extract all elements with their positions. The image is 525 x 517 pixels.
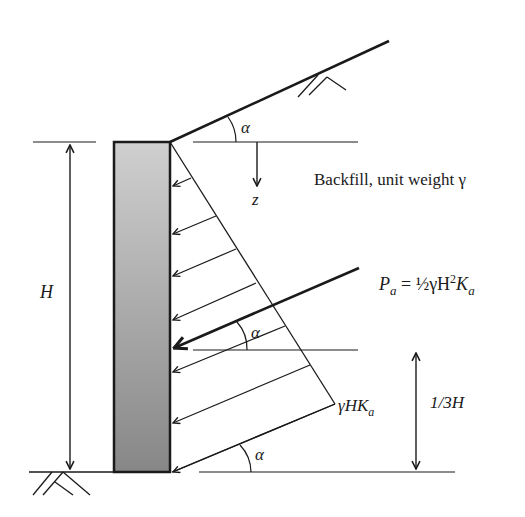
resultant-equation: Pa = ½γH2Ka (378, 272, 475, 298)
resultant-k: K (455, 274, 469, 294)
resultant-eq-mid: = ½γH (397, 274, 451, 294)
base-pressure-label: γHKa (338, 396, 374, 419)
pressure-envelope-line (170, 142, 335, 404)
retaining-wall (114, 142, 170, 472)
backfill-slope-line (170, 41, 389, 142)
resultant-k-sub: a (468, 283, 475, 298)
resultant-height-label: 1/3H (430, 393, 466, 412)
z-axis-label: z (251, 190, 259, 209)
base-ground-hatch-icon (33, 472, 90, 495)
alpha-label-bottom: α (255, 445, 265, 464)
resultant-p: P (378, 274, 390, 294)
resultant-force-arrow (174, 268, 359, 348)
alpha-arc-mid (237, 322, 247, 350)
height-label: H (39, 282, 54, 302)
backfill-label: Backfill, unit weight γ (314, 170, 466, 189)
alpha-arc-top (228, 117, 236, 142)
alpha-label-top: α (241, 118, 251, 137)
retaining-wall-diagram: α z Backfill, unit weight γ H α Pa = ½γH… (0, 0, 525, 517)
alpha-label-mid: α (251, 323, 261, 342)
alpha-arc-bottom (240, 445, 251, 472)
